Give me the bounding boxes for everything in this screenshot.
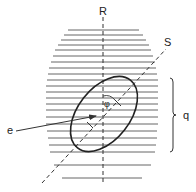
brace-q-label: q — [183, 109, 189, 121]
diagram-canvas: R S φ e q — [0, 0, 196, 192]
ellipse-e-label: e — [7, 124, 13, 136]
axis-r-label: R — [99, 5, 107, 17]
angle-phi-label: φ — [104, 99, 110, 109]
hatch-lines — [46, 30, 158, 178]
brace-q — [170, 78, 176, 152]
ellipse-e — [57, 64, 151, 164]
arrow-to-ellipse — [16, 116, 96, 131]
axis-s-line — [42, 49, 166, 183]
axis-s-label: S — [164, 36, 171, 48]
